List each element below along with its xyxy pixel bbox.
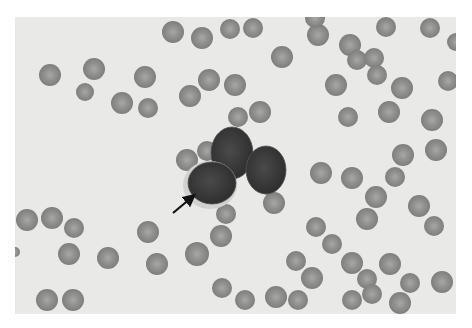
red-blood-cell [421, 109, 443, 131]
red-blood-cell [286, 251, 306, 271]
red-blood-cell [310, 162, 332, 184]
red-blood-cell [438, 71, 458, 91]
red-blood-cell [58, 243, 80, 265]
red-blood-cell [212, 278, 232, 298]
red-blood-cell [137, 221, 159, 243]
red-blood-cell [385, 167, 405, 187]
red-blood-cell [288, 290, 308, 310]
red-blood-cell [341, 252, 363, 274]
red-blood-cell [39, 64, 61, 86]
red-blood-cell [391, 77, 413, 99]
red-blood-cell [162, 21, 184, 43]
blood-smear-micrograph [0, 0, 472, 328]
red-blood-cell [341, 167, 363, 189]
red-blood-cell [265, 286, 287, 308]
red-blood-cell [379, 253, 401, 275]
red-blood-cell [179, 85, 201, 107]
red-blood-cell [134, 66, 156, 88]
red-blood-cell [342, 290, 362, 310]
red-blood-cell [249, 101, 271, 123]
red-blood-cell [367, 65, 387, 85]
red-blood-cell [389, 292, 411, 314]
red-blood-cell [325, 74, 347, 96]
red-blood-cell [138, 98, 158, 118]
red-blood-cell [228, 107, 248, 127]
red-blood-cell [301, 267, 323, 289]
red-blood-cell [146, 253, 168, 275]
red-blood-cell [111, 92, 133, 114]
red-blood-cell [263, 192, 285, 214]
red-blood-cell [185, 242, 209, 266]
red-blood-cell [16, 209, 38, 231]
red-blood-cell [378, 101, 400, 123]
red-blood-cell [425, 139, 447, 161]
red-blood-cell [41, 207, 63, 229]
red-blood-cell [97, 247, 119, 269]
red-blood-cell [362, 284, 382, 304]
red-blood-cell [305, 8, 325, 28]
nucleated-cell [188, 162, 236, 204]
red-blood-cell [322, 234, 342, 254]
red-blood-cell [424, 216, 444, 236]
red-blood-cell [198, 69, 220, 91]
red-blood-cell [210, 225, 232, 247]
red-blood-cell [191, 27, 213, 49]
red-blood-cell [271, 46, 293, 68]
red-blood-cell [224, 74, 246, 96]
red-blood-cell [347, 50, 367, 70]
red-blood-cell [306, 217, 326, 237]
red-blood-cell [64, 218, 84, 238]
red-blood-cell [36, 289, 58, 311]
nucleated-cell [246, 146, 286, 194]
red-blood-cell [400, 273, 420, 293]
red-blood-cell [364, 48, 384, 68]
red-blood-cell [356, 208, 378, 230]
red-blood-cell [431, 271, 453, 293]
red-blood-cell [62, 289, 84, 311]
red-blood-cell [243, 18, 263, 38]
red-blood-cell [420, 18, 440, 38]
red-blood-cell [365, 186, 387, 208]
red-blood-cell [10, 247, 20, 257]
red-blood-cell [408, 195, 430, 217]
red-blood-cell [392, 144, 414, 166]
red-blood-cell [376, 17, 396, 37]
red-blood-cell [235, 290, 255, 310]
red-blood-cell [447, 33, 465, 51]
red-blood-cell [83, 58, 105, 80]
red-blood-cell [338, 107, 358, 127]
red-blood-cell [220, 19, 240, 39]
red-blood-cell [76, 83, 94, 101]
